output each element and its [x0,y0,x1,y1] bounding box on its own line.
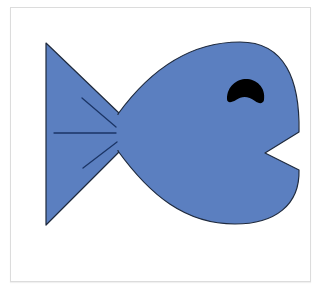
fish-body [118,42,299,224]
fish-tail [46,43,120,225]
fish-illustration [0,0,321,294]
